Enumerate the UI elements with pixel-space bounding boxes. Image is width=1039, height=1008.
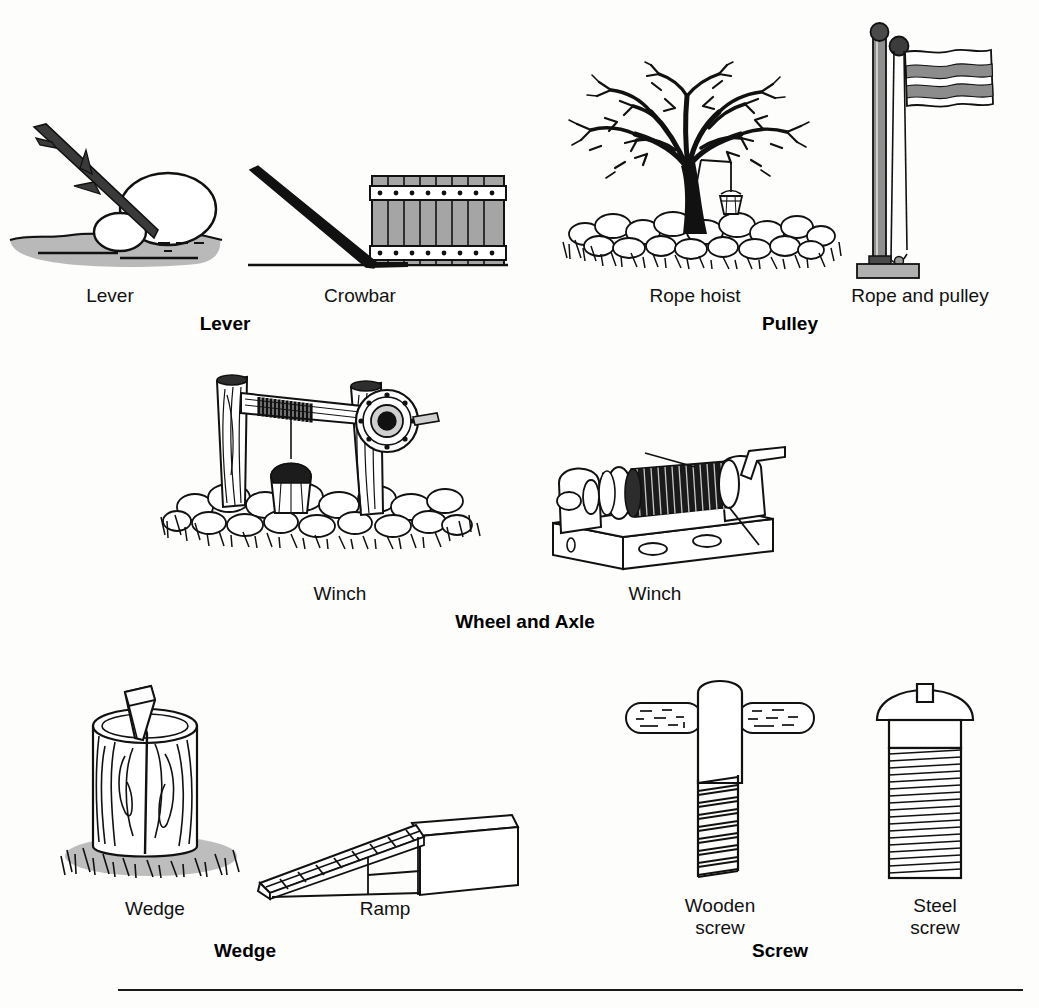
rope-hoist-illustration <box>555 62 845 277</box>
screw-collar <box>889 720 961 748</box>
flag <box>905 50 993 107</box>
ramp-illustration <box>250 805 520 910</box>
category-wedge: Wedge <box>180 940 310 962</box>
label-wedge: Wedge <box>100 898 210 920</box>
hand-winch-illustration <box>545 445 795 575</box>
label-well-winch: Winch <box>285 583 395 605</box>
label-lever: Lever <box>55 285 165 307</box>
halyard-left <box>891 51 894 260</box>
ramp-rail-upper <box>266 831 420 887</box>
category-pulley: Pulley <box>730 313 850 335</box>
bolt-hole-1 <box>639 543 667 555</box>
label-wooden-screw: Wooden screw <box>645 895 795 939</box>
crate-band-bottom <box>370 246 506 260</box>
screw-shank <box>698 681 742 783</box>
platform-face <box>420 827 518 895</box>
label-ramp: Ramp <box>330 898 440 920</box>
category-screw: Screw <box>715 940 845 962</box>
hoist-bucket <box>720 191 742 215</box>
label-rope-hoist: Rope hoist <box>625 285 765 307</box>
winch-cable <box>645 453 695 467</box>
crowbar-tip <box>366 262 408 268</box>
ramp-brace <box>368 871 420 875</box>
pole-base-plate <box>857 264 919 278</box>
axle-boss-left <box>557 492 581 510</box>
label-steel-screw: Steel screw <box>860 895 1010 939</box>
category-lever: Lever <box>170 313 280 335</box>
well-bucket <box>271 464 311 514</box>
winch-cable-drum <box>625 460 739 517</box>
ramp-bottom-rail <box>272 893 420 897</box>
bottom-divider-rule <box>118 989 1023 991</box>
ramp-side <box>270 837 424 899</box>
crate <box>370 176 506 265</box>
winch-crank-handle <box>741 447 785 479</box>
wooden-screw-threads <box>698 777 738 875</box>
tree-canopy <box>569 62 809 178</box>
crowbar-bar <box>250 166 376 268</box>
category-wheel-and-axle: Wheel and Axle <box>425 611 625 633</box>
bolt-hole-side <box>567 538 575 552</box>
bolt-hole-2 <box>693 535 721 547</box>
well-stones <box>163 483 472 537</box>
hoist-rope-angle <box>701 160 731 162</box>
steel-screw-illustration <box>865 670 995 890</box>
label-rope-and-pulley: Rope and pulley <box>820 285 1020 307</box>
lever-stick-illustration <box>8 112 238 277</box>
pole-finial-ball <box>871 23 889 41</box>
flag-stripe-lower <box>907 84 994 99</box>
rope-and-pulley-illustration <box>855 18 1015 280</box>
flag-stripe-upper <box>906 64 993 79</box>
crowbar-illustration <box>248 162 508 280</box>
splitting-wedge-illustration <box>55 678 255 883</box>
label-hand-winch: Winch <box>600 583 710 605</box>
flag-pole <box>873 36 886 264</box>
screw-slot <box>917 684 933 702</box>
winch-crank-wheel <box>356 390 439 452</box>
well-winch-illustration <box>155 355 495 580</box>
label-crowbar: Crowbar <box>305 285 415 307</box>
crate-band-top <box>370 186 506 200</box>
wooden-screw-illustration <box>610 665 830 890</box>
